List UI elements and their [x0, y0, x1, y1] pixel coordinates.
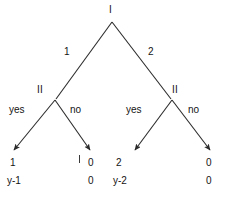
- node-label-right-player-two: II: [172, 85, 178, 95]
- node-label-root: I: [109, 5, 112, 15]
- payoff-leaf-2-bottom: 0: [88, 176, 94, 186]
- payoff-leaf-2-top: 0: [88, 158, 94, 168]
- branch-label-right-no: no: [188, 105, 199, 115]
- edge-root-left: [56, 22, 112, 99]
- payoff-leaf-4-top: 0: [206, 158, 212, 168]
- branch-label-root-left: 1: [64, 47, 70, 57]
- node-label-left-player-two: II: [37, 85, 43, 95]
- payoff-leaf-1-top: 1: [10, 158, 16, 168]
- payoff-leaf-3-bottom: y-2: [113, 176, 127, 186]
- payoff-leaf-1-bottom: y-1: [7, 176, 21, 186]
- edge-root-right: [112, 22, 171, 99]
- branch-label-left-no: no: [70, 105, 81, 115]
- branch-label-left-yes: yes: [9, 105, 25, 115]
- game-tree-figure: I II II 1 2 yes no yes no 1 y-1 0 0 2 y-…: [0, 0, 227, 205]
- payoff-leaf-4-bottom: 0: [206, 176, 212, 186]
- stray-tick-icon: [79, 155, 80, 163]
- branch-label-root-right: 2: [148, 47, 154, 57]
- branch-label-right-yes: yes: [126, 105, 142, 115]
- payoff-leaf-3-top: 2: [116, 158, 122, 168]
